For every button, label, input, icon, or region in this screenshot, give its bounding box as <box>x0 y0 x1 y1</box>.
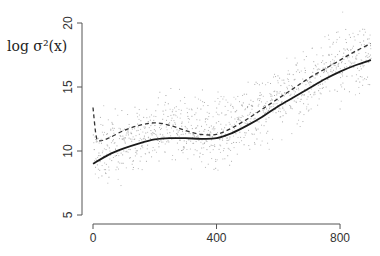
y-tick-label: 10 <box>61 144 75 158</box>
x-tick-label: 800 <box>330 231 350 245</box>
scatter-points <box>93 12 372 186</box>
x-tick-label: 400 <box>207 231 227 245</box>
y-tick-label: 20 <box>61 16 75 30</box>
y-tick-label: 5 <box>61 211 75 218</box>
axes: 51015200400800 <box>61 16 350 245</box>
y-axis-label: log σ²(x) <box>7 38 67 54</box>
y-axis-label-text: log σ²(x) <box>7 38 67 54</box>
y-tick-label: 15 <box>61 80 75 94</box>
x-tick-label: 0 <box>90 231 97 245</box>
